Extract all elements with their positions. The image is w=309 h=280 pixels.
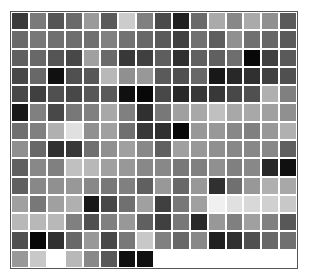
grid-cell (262, 141, 278, 157)
grid-cell (173, 214, 189, 230)
grid-cell (48, 31, 64, 47)
grid-cell (119, 141, 135, 157)
grid-cell (30, 123, 46, 139)
grid-cell (262, 50, 278, 66)
grid-cell (119, 123, 135, 139)
grid-cell (48, 50, 64, 66)
grid-cell (155, 214, 171, 230)
grid-cell (244, 123, 260, 139)
grid-cell (119, 13, 135, 29)
grid-cell (137, 159, 153, 175)
grid-cell (30, 86, 46, 102)
grid-cell (209, 31, 225, 47)
grid-cell (12, 50, 28, 66)
grid-cell (262, 86, 278, 102)
grid-cell (262, 13, 278, 29)
grid-cell (66, 13, 82, 29)
grid-cell (48, 159, 64, 175)
grid-cell (191, 159, 207, 175)
grid-cell (209, 104, 225, 120)
grid-cell (101, 159, 117, 175)
grid-cell (155, 159, 171, 175)
grid-cell (227, 214, 243, 230)
grid-cell (137, 31, 153, 47)
grayscale-grid (12, 13, 296, 267)
grid-cell (191, 178, 207, 194)
grid-cell (173, 196, 189, 212)
grid-cell (280, 251, 296, 267)
grid-cell (12, 159, 28, 175)
grid-cell (101, 123, 117, 139)
grid-cell (209, 159, 225, 175)
grid-cell (262, 104, 278, 120)
grid-cell (191, 251, 207, 267)
grid-cell (66, 251, 82, 267)
grid-cell (173, 178, 189, 194)
grid-cell (280, 104, 296, 120)
grid-cell (84, 86, 100, 102)
grid-cell (244, 251, 260, 267)
grid-cell (137, 214, 153, 230)
grid-cell (155, 251, 171, 267)
grid-cell (227, 86, 243, 102)
grid-cell (209, 232, 225, 248)
grid-cell (227, 196, 243, 212)
grid-cell (101, 141, 117, 157)
grid-cell (137, 104, 153, 120)
grid-cell (173, 141, 189, 157)
grid-cell (137, 123, 153, 139)
grid-cell (155, 68, 171, 84)
grid-cell (30, 104, 46, 120)
grid-cell (191, 104, 207, 120)
grid-cell (244, 50, 260, 66)
grid-cell (280, 123, 296, 139)
grid-cell (155, 232, 171, 248)
grid-cell (173, 13, 189, 29)
grid-cell (119, 159, 135, 175)
grid-cell (101, 178, 117, 194)
grid-cell (155, 13, 171, 29)
grid-cell (173, 31, 189, 47)
grid-cell (280, 178, 296, 194)
grid-cell (244, 68, 260, 84)
grid-cell (84, 232, 100, 248)
grid-cell (119, 68, 135, 84)
grid-cell (262, 232, 278, 248)
grid-cell (280, 232, 296, 248)
grid-cell (66, 159, 82, 175)
grid-cell (244, 178, 260, 194)
grid-cell (119, 31, 135, 47)
grid-cell (101, 50, 117, 66)
grid-cell (227, 13, 243, 29)
grid-cell (173, 159, 189, 175)
grid-cell (191, 13, 207, 29)
grid-cell (66, 104, 82, 120)
grid-cell (119, 196, 135, 212)
grid-cell (262, 251, 278, 267)
grid-cell (280, 50, 296, 66)
grid-cell (227, 31, 243, 47)
grid-cell (84, 31, 100, 47)
grid-cell (262, 178, 278, 194)
grid-cell (66, 50, 82, 66)
grid-cell (30, 178, 46, 194)
grid-cell (244, 214, 260, 230)
grid-cell (66, 86, 82, 102)
grid-cell (66, 68, 82, 84)
grid-cell (84, 159, 100, 175)
grid-cell (30, 13, 46, 29)
grid-cell (119, 86, 135, 102)
grid-cell (119, 214, 135, 230)
grid-cell (227, 123, 243, 139)
grid-cell (12, 196, 28, 212)
grid-cell (30, 68, 46, 84)
grid-cell (101, 214, 117, 230)
grid-cell (84, 196, 100, 212)
grid-cell (262, 214, 278, 230)
grid-cell (155, 86, 171, 102)
grid-cell (155, 104, 171, 120)
grid-cell (30, 196, 46, 212)
grid-cell (244, 196, 260, 212)
grid-cell (280, 13, 296, 29)
grid-cell (66, 232, 82, 248)
